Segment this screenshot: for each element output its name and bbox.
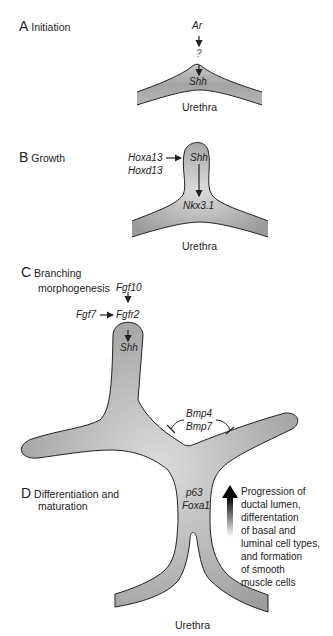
panel-d-title-1: Differentiation and <box>34 488 119 500</box>
gene-fgf10: Fgf10 <box>116 282 142 294</box>
description-line: differentation <box>241 511 320 524</box>
gene-fgf7: Fgf7 <box>76 309 96 321</box>
panel-b-letter: B <box>19 149 28 165</box>
urethra-label-d: Urethra <box>175 619 210 631</box>
gene-nkx31: Nkx3.1 <box>183 200 214 212</box>
progression-description: Progression of ductal lumen, differentat… <box>241 485 320 589</box>
gene-fgfr2: Fgfr2 <box>116 309 139 321</box>
description-line: Progression of <box>241 485 320 498</box>
description-line: and formation <box>241 550 320 563</box>
gene-unknown: ? <box>196 48 202 60</box>
gene-bmp4: Bmp4 <box>186 408 212 420</box>
gene-shh-b: Shh <box>190 152 208 164</box>
panel-b-title: Growth <box>31 152 65 164</box>
gene-hoxd13: Hoxd13 <box>128 165 162 177</box>
gene-hoxa13: Hoxa13 <box>128 152 162 164</box>
progression-arrow-shaft <box>227 497 233 537</box>
gene-foxa1: Foxa1 <box>182 500 210 512</box>
panel-a-heading: A Initiation <box>19 20 70 33</box>
panel-c-letter: C <box>21 264 31 280</box>
gene-shh-c: Shh <box>120 342 138 354</box>
description-line: luminal cell types, <box>241 537 320 550</box>
progression-arrowhead <box>222 485 238 498</box>
panel-d-letter: D <box>21 485 31 501</box>
description-line: of basal and <box>241 524 320 537</box>
panel-d-heading: D Differentiation and <box>21 487 119 500</box>
description-line: of smooth <box>241 563 320 576</box>
description-line: ductal lumen, <box>241 498 320 511</box>
description-line: muscle cells <box>241 576 320 589</box>
gene-bmp7: Bmp7 <box>186 421 212 433</box>
panel-a-title: Initiation <box>31 21 70 33</box>
gene-shh-a: Shh <box>189 76 207 88</box>
panel-a-tissue <box>137 36 262 105</box>
gene-p63: p63 <box>186 487 203 499</box>
gene-ar: Ar <box>192 20 202 32</box>
panel-d-title-2: maturation <box>38 500 88 512</box>
panel-c-title-1: Branching <box>34 267 81 279</box>
panel-c-title-2: morphogenesis <box>38 282 110 294</box>
urethra-label-a: Urethra <box>182 101 217 113</box>
panel-b-heading: B Growth <box>19 151 65 164</box>
panel-a-letter: A <box>19 18 28 34</box>
panel-c-heading: C Branching <box>21 266 81 279</box>
urethra-label-b: Urethra <box>182 240 217 252</box>
